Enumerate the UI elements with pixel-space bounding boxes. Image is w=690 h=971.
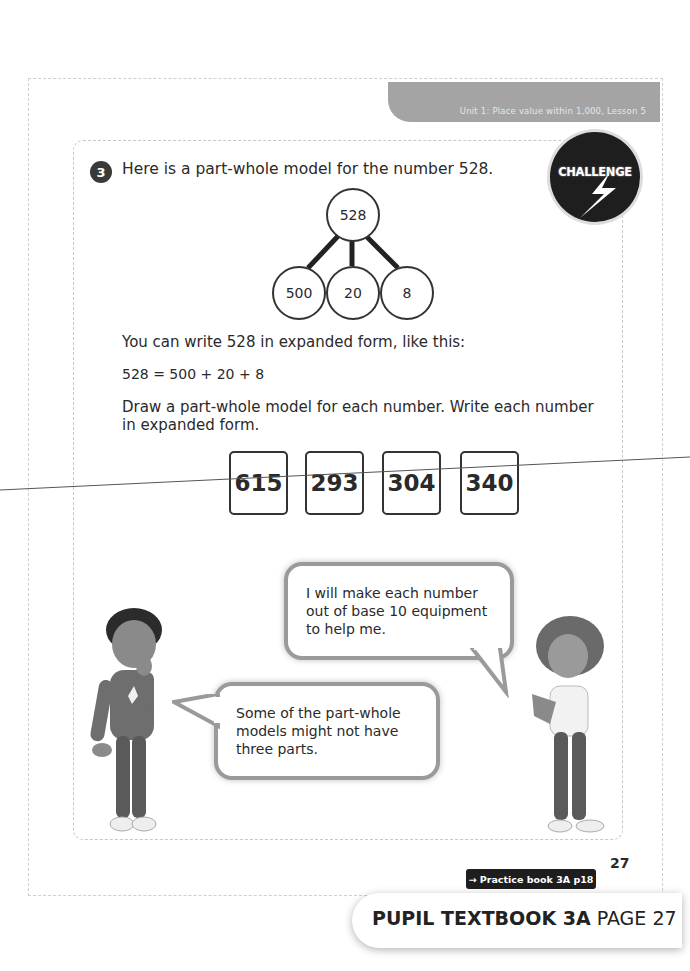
expanded-form-equation: 528 = 500 + 20 + 8 — [122, 366, 264, 382]
practice-book-link[interactable]: → Practice book 3A p18 — [466, 869, 596, 889]
lesson-breadcrumb: Unit 1: Place value within 1,000, Lesson… — [460, 106, 646, 116]
expanded-form-intro: You can write 528 in expanded form, like… — [122, 333, 465, 351]
speech-tail-girl — [470, 648, 510, 698]
number-card: 340 — [460, 451, 519, 515]
question-prompt: Here is a part-whole model for the numbe… — [122, 160, 493, 178]
footer-tab: PUPIL TEXTBOOK 3A PAGE 27 — [352, 893, 682, 948]
number-card: 615 — [229, 451, 288, 515]
speech-line: models might not have — [236, 722, 398, 740]
boy-character-illustration — [78, 600, 188, 840]
number-card: 293 — [305, 451, 364, 515]
lesson-header-band: Unit 1: Place value within 1,000, Lesson… — [388, 82, 660, 122]
challenge-badge: CHALLENGE — [550, 132, 640, 222]
speech-line: three parts. — [236, 740, 318, 758]
question-number-badge: 3 — [90, 161, 112, 183]
part-circle: 500 — [272, 266, 326, 320]
speech-line: out of base 10 equipment — [306, 602, 487, 620]
instruction-line-2: in expanded form. — [122, 416, 259, 434]
speech-line: Some of the part-whole — [236, 704, 401, 722]
whole-circle: 528 — [326, 188, 380, 242]
part-circle: 20 — [326, 266, 380, 320]
page-label: PAGE 27 — [597, 907, 677, 929]
speech-line: I will make each number — [306, 584, 478, 602]
speech-line: to help me. — [306, 620, 386, 638]
girl-character-illustration — [520, 612, 620, 842]
part-circle: 8 — [380, 266, 434, 320]
footer-label: PUPIL TEXTBOOK 3A PAGE 27 — [372, 907, 677, 929]
instruction-line-1: Draw a part-whole model for each number.… — [122, 398, 594, 416]
page-number: 27 — [610, 855, 629, 871]
speech-bubble-girl: I will make each number out of base 10 e… — [284, 562, 514, 660]
speech-bubble-boy: Some of the part-whole models might not … — [214, 682, 440, 780]
book-title: PUPIL TEXTBOOK 3A — [372, 907, 591, 929]
challenge-label: CHALLENGE — [550, 165, 640, 179]
number-card: 304 — [382, 451, 441, 515]
